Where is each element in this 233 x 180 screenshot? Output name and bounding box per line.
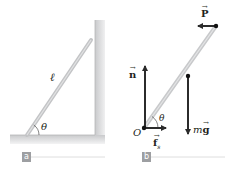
top-contact-dot	[214, 24, 218, 28]
ladder-diagram	[0, 0, 233, 180]
floor	[10, 135, 105, 144]
gravity-force-label: m→g	[193, 125, 209, 135]
angle-label-a: θ	[41, 122, 47, 132]
center-of-mass-dot	[186, 74, 190, 78]
wall	[95, 20, 105, 140]
length-label: ℓ	[50, 72, 55, 83]
applied-force-label: →P	[201, 9, 209, 19]
panel-a-tag: a	[22, 152, 31, 162]
panel-b-tag: b	[142, 152, 151, 162]
angle-label-b: θ	[159, 114, 164, 123]
friction-force-label: →fs	[153, 138, 160, 150]
origin-dot	[142, 126, 146, 130]
normal-force-label: →n	[129, 70, 136, 80]
origin-label: O	[133, 128, 141, 138]
